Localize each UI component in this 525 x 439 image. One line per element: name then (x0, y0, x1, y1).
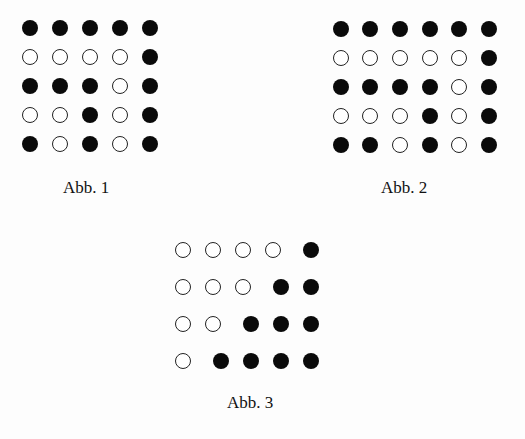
open-dot-icon (52, 136, 68, 152)
filled-dot-icon (52, 20, 68, 36)
figure-caption: Abb. 2 (381, 178, 427, 198)
filled-dot-icon (82, 20, 98, 36)
filled-dot-icon (333, 21, 349, 37)
open-dot-icon (22, 107, 38, 123)
filled-dot-icon (303, 316, 319, 332)
open-dot-icon (52, 107, 68, 123)
open-dot-icon (451, 108, 467, 124)
filled-dot-icon (243, 316, 259, 332)
filled-dot-icon (243, 353, 259, 369)
filled-dot-icon (481, 50, 497, 66)
open-dot-icon (112, 136, 128, 152)
open-dot-icon (265, 242, 281, 258)
filled-dot-icon (422, 79, 438, 95)
open-dot-icon (112, 107, 128, 123)
open-dot-icon (52, 49, 68, 65)
open-dot-icon (112, 49, 128, 65)
figure-caption: Abb. 3 (227, 393, 273, 413)
filled-dot-icon (303, 242, 319, 258)
open-dot-icon (392, 50, 408, 66)
filled-dot-icon (422, 21, 438, 37)
open-dot-icon (235, 242, 251, 258)
open-dot-icon (175, 242, 191, 258)
open-dot-icon (422, 50, 438, 66)
filled-dot-icon (112, 20, 128, 36)
open-dot-icon (112, 78, 128, 94)
open-dot-icon (205, 316, 221, 332)
filled-dot-icon (481, 79, 497, 95)
filled-dot-icon (362, 137, 378, 153)
open-dot-icon (451, 137, 467, 153)
open-dot-icon (235, 279, 251, 295)
filled-dot-icon (481, 137, 497, 153)
open-dot-icon (392, 137, 408, 153)
filled-dot-icon (422, 137, 438, 153)
filled-dot-icon (82, 78, 98, 94)
open-dot-icon (175, 316, 191, 332)
open-dot-icon (362, 108, 378, 124)
filled-dot-icon (142, 136, 158, 152)
filled-dot-icon (481, 108, 497, 124)
filled-dot-icon (422, 108, 438, 124)
open-dot-icon (333, 50, 349, 66)
open-dot-icon (392, 108, 408, 124)
filled-dot-icon (273, 353, 289, 369)
filled-dot-icon (142, 78, 158, 94)
filled-dot-icon (22, 20, 38, 36)
filled-dot-icon (22, 136, 38, 152)
filled-dot-icon (333, 137, 349, 153)
filled-dot-icon (22, 78, 38, 94)
filled-dot-icon (142, 20, 158, 36)
filled-dot-icon (333, 79, 349, 95)
filled-dot-icon (362, 21, 378, 37)
filled-dot-icon (273, 316, 289, 332)
filled-dot-icon (451, 21, 467, 37)
filled-dot-icon (392, 79, 408, 95)
figure-caption: Abb. 1 (63, 178, 109, 198)
filled-dot-icon (303, 279, 319, 295)
filled-dot-icon (273, 279, 289, 295)
open-dot-icon (22, 49, 38, 65)
open-dot-icon (362, 50, 378, 66)
open-dot-icon (451, 50, 467, 66)
filled-dot-icon (481, 21, 497, 37)
filled-dot-icon (82, 107, 98, 123)
filled-dot-icon (142, 49, 158, 65)
open-dot-icon (205, 242, 221, 258)
filled-dot-icon (392, 21, 408, 37)
open-dot-icon (175, 279, 191, 295)
open-dot-icon (82, 49, 98, 65)
open-dot-icon (205, 279, 221, 295)
open-dot-icon (451, 79, 467, 95)
open-dot-icon (175, 353, 191, 369)
filled-dot-icon (82, 136, 98, 152)
filled-dot-icon (303, 353, 319, 369)
filled-dot-icon (213, 353, 229, 369)
open-dot-icon (333, 108, 349, 124)
filled-dot-icon (52, 78, 68, 94)
filled-dot-icon (142, 107, 158, 123)
filled-dot-icon (362, 79, 378, 95)
